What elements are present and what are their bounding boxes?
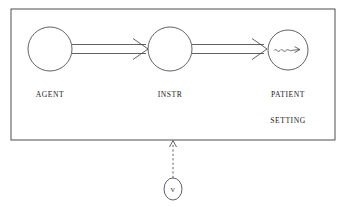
- vehicle-label: V: [171, 186, 176, 193]
- edge-agent-to-instr: [72, 39, 148, 60]
- setting-frame-label: SETTING: [270, 116, 306, 125]
- wavy-arrow-icon: [274, 47, 300, 53]
- edge-instr-to-patient: [192, 39, 267, 60]
- node-circle-instr: [148, 27, 192, 71]
- node-label-instr: INSTR: [158, 90, 183, 99]
- diagram-root: AGENT INSTR PATIENT SETTING V: [0, 0, 344, 207]
- node-label-patient: PATIENT: [271, 90, 305, 99]
- diagram-canvas: AGENT INSTR PATIENT SETTING V: [0, 0, 344, 207]
- node-circle-agent: [28, 27, 72, 71]
- vehicle-connector: [170, 141, 177, 179]
- node-label-agent: AGENT: [36, 90, 64, 99]
